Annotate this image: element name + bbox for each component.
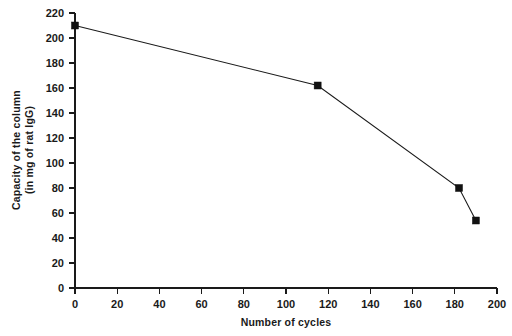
y-tick-label: 0 xyxy=(58,282,64,294)
data-point-marker xyxy=(72,22,79,29)
x-tick-label: 120 xyxy=(319,298,337,310)
y-tick-label: 220 xyxy=(46,7,64,19)
data-point-marker xyxy=(472,217,479,224)
x-tick-label: 200 xyxy=(488,298,506,310)
y-axis-title-line1: Capacity of the column xyxy=(10,90,22,210)
y-tick-label: 140 xyxy=(46,107,64,119)
x-tick-label: 80 xyxy=(238,298,250,310)
y-tick-label: 160 xyxy=(46,82,64,94)
chart-figure: 020406080100120140160180200220 020406080… xyxy=(0,0,512,336)
x-tick-label: 180 xyxy=(446,298,464,310)
y-tick-label: 200 xyxy=(46,32,64,44)
y-tick-label: 20 xyxy=(52,257,64,269)
y-axis-title-line2: (in mg of rat IgG) xyxy=(23,106,35,194)
x-tick-label: 40 xyxy=(153,298,165,310)
x-axis-title: Number of cycles xyxy=(241,316,332,328)
x-tick-label: 160 xyxy=(403,298,421,310)
x-tick-label: 20 xyxy=(111,298,123,310)
y-tick-label: 100 xyxy=(46,157,64,169)
x-tick-label: 60 xyxy=(195,298,207,310)
y-tick-label: 60 xyxy=(52,207,64,219)
line-chart: 020406080100120140160180200220 020406080… xyxy=(0,0,512,336)
y-tick-label: 120 xyxy=(46,132,64,144)
data-point-marker xyxy=(314,82,321,89)
x-tick-label: 0 xyxy=(72,298,78,310)
chart-background xyxy=(0,0,512,336)
y-tick-label: 80 xyxy=(52,182,64,194)
y-tick-label: 40 xyxy=(52,232,64,244)
data-point-marker xyxy=(456,185,463,192)
x-tick-label: 140 xyxy=(361,298,379,310)
x-tick-label: 100 xyxy=(277,298,295,310)
y-tick-label: 180 xyxy=(46,57,64,69)
